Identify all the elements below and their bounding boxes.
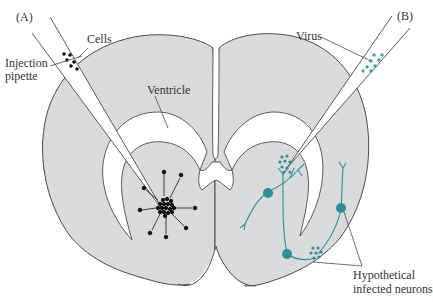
ventricle-label: Ventricle <box>147 83 190 97</box>
midline-fissure <box>213 48 219 159</box>
virus-label: Virus <box>296 29 322 43</box>
panel-label-b: (B) <box>397 9 413 23</box>
neuron-soma <box>263 188 273 198</box>
cells-label: Cells <box>87 32 112 46</box>
neurons-label-line1: Hypothetical <box>353 268 416 282</box>
neurons-label-line2: infected neurons <box>353 282 433 296</box>
panel-label-a: (A) <box>16 10 33 24</box>
neuron-soma <box>336 203 346 213</box>
brain-injection-diagram: (A) (B) Cells Injection pipette Ventricl… <box>0 0 433 302</box>
injection-pipette-label-line1: Injection <box>5 56 48 70</box>
injection-pipette-label-line2: pipette <box>5 69 38 83</box>
brain-section <box>43 34 369 302</box>
neuron-soma <box>282 249 292 259</box>
